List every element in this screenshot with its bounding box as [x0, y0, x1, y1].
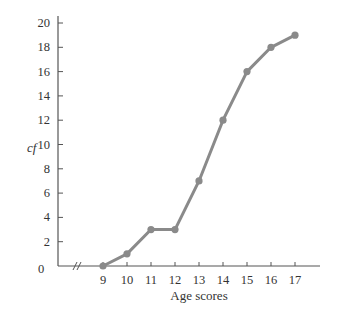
y-tick-label: 14 — [38, 89, 51, 103]
x-tick-label: 16 — [265, 273, 278, 287]
data-point — [99, 262, 106, 269]
data-series — [99, 32, 298, 270]
y-tick-label: 16 — [38, 65, 51, 79]
data-point — [123, 250, 130, 257]
data-point — [171, 226, 178, 233]
x-tick-label: 9 — [100, 273, 106, 287]
y-tick-label: 6 — [44, 186, 50, 200]
data-point — [267, 44, 274, 51]
x-tick-label: 17 — [289, 273, 302, 287]
y-tick-label: 20 — [38, 16, 51, 30]
x-tick-label: 11 — [145, 273, 157, 287]
origin-label: 0 — [38, 262, 44, 276]
y-tick-label: 10 — [38, 138, 51, 152]
cumulative-frequency-chart: 2468101214161820 91011121314151617 cf Ag… — [0, 0, 341, 323]
y-tick-label: 8 — [44, 162, 50, 176]
y-tick-label: 4 — [44, 210, 51, 224]
y-tick-label: 2 — [44, 235, 50, 249]
x-tick-label: 13 — [193, 273, 206, 287]
x-tick-label: 15 — [241, 273, 254, 287]
y-tick-label: 18 — [38, 40, 51, 54]
x-tick-label: 12 — [169, 273, 182, 287]
x-axis-title: Age scores — [170, 288, 227, 303]
x-tick-label: 10 — [121, 273, 134, 287]
data-point — [147, 226, 154, 233]
data-point — [291, 32, 298, 39]
data-point — [195, 177, 202, 184]
x-tick-label: 14 — [217, 273, 230, 287]
series-line — [103, 35, 295, 266]
y-tick-label: 12 — [38, 113, 51, 127]
data-point — [243, 68, 250, 75]
x-axis: 91011121314151617 — [58, 262, 320, 287]
data-point — [219, 117, 226, 124]
y-axis: 2468101214161820 — [38, 16, 64, 266]
